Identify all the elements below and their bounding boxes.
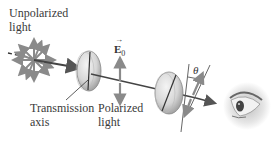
polarized-light-label: Polarized light [98,102,143,128]
unpolarized-label-line2: light [9,21,68,33]
transmission-label-line1: Transmission [30,102,94,114]
unpolarized-label-line1: Unpolarized [9,7,68,19]
polarization-diagram: Unpolarized light → E0 Transmission axis… [0,0,273,143]
theta-label: θ [193,64,198,76]
beam-to-eye [196,98,211,102]
polarizer-disk-icon [76,51,101,91]
transmission-axis-label: Transmission axis [30,102,94,128]
transmission-label-line2: axis [30,116,94,128]
polarized-label-line1: Polarized [98,102,143,114]
e-field-subscript: 0 [121,49,125,58]
eye-icon [223,82,271,130]
transmitted-field-arrow [186,77,201,112]
e-field-label: → E0 [114,43,125,58]
analyzer-disk-icon [155,72,183,114]
polarized-label-line2: light [98,116,143,128]
unpolarized-light-label: Unpolarized light [9,7,68,33]
